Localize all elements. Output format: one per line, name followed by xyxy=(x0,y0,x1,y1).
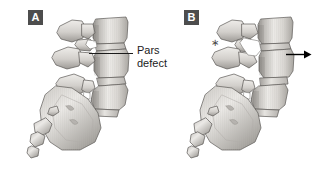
spine-illustration-a xyxy=(0,0,161,172)
arrow-right-icon xyxy=(286,48,312,61)
panel-b: B xyxy=(160,0,321,172)
asterisk-marker: ∗ xyxy=(211,38,219,48)
pars-defect-label: Pars defect xyxy=(137,44,167,69)
pars-defect-leader-line xyxy=(89,53,133,54)
pars-defect-label-line2: defect xyxy=(137,57,167,70)
panel-a-badge: A xyxy=(28,10,43,25)
panel-b-badge: B xyxy=(184,10,199,25)
pars-defect-label-line1: Pars xyxy=(137,44,160,56)
panel-a: A xyxy=(0,0,161,172)
spine-illustration-b xyxy=(160,0,321,172)
spine-figure: A xyxy=(0,0,321,172)
